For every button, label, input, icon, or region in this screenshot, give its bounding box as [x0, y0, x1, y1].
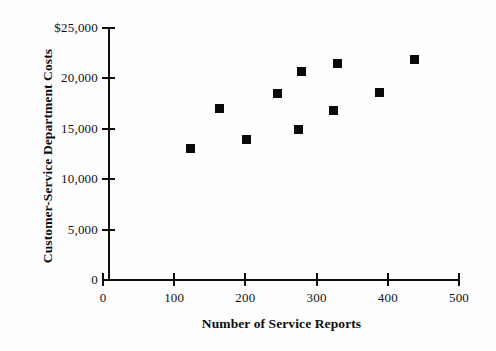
data-point-marker	[410, 55, 419, 64]
x-axis-tick	[458, 273, 460, 286]
x-axis-tick-label: 200	[215, 291, 275, 304]
data-point-marker	[186, 144, 195, 153]
y-axis-title-holder: Customer-Service Department Costs	[22, 0, 23, 351]
x-axis-tick	[316, 273, 318, 286]
y-axis-tick	[102, 128, 115, 130]
x-axis-tick-label: 300	[287, 291, 347, 304]
x-axis-tick	[244, 273, 246, 286]
y-axis-tick	[102, 27, 115, 29]
y-axis-tick	[102, 77, 115, 79]
y-axis-tick	[102, 178, 115, 180]
x-axis-tick-label: 500	[429, 291, 489, 304]
x-axis-title: Number of Service Reports	[103, 316, 460, 332]
data-point-marker	[329, 106, 338, 115]
x-axis-tick-label: 0	[73, 291, 133, 304]
x-axis-line	[103, 279, 460, 281]
x-axis-tick	[102, 273, 104, 286]
scatter-plot: 05,00010,00015,00020,000$25,000 01002003…	[0, 0, 496, 351]
x-axis-tick	[173, 273, 175, 286]
data-point-marker	[297, 67, 306, 76]
data-point-marker	[333, 59, 342, 68]
x-axis-tick	[387, 273, 389, 286]
data-point-marker	[242, 135, 251, 144]
x-axis-tick-label: 100	[144, 291, 204, 304]
data-point-marker	[375, 88, 384, 97]
y-axis-tick	[102, 229, 115, 231]
chart-page: 05,00010,00015,00020,000$25,000 01002003…	[0, 0, 496, 351]
x-axis-tick-label: 400	[358, 291, 418, 304]
data-point-marker	[294, 125, 303, 134]
y-axis-title: Customer-Service Department Costs	[40, 26, 56, 286]
data-point-marker	[273, 89, 282, 98]
data-point-marker	[215, 104, 224, 113]
y-axis-line	[108, 28, 110, 281]
